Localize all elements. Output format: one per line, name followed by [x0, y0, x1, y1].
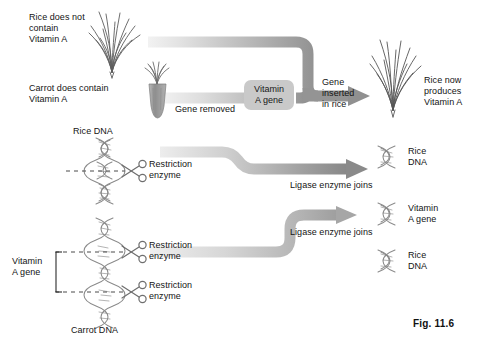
vitamin-a-gene-box: Vitamin A gene [244, 80, 294, 110]
label-product-rice-dna-2: Rice DNA [408, 250, 427, 272]
label-vitamin-a-gene-bracket: Vitamin A gene [12, 256, 42, 278]
dna-helix-product-1 [378, 146, 395, 168]
label-rice-does-not-contain: Rice does not contain Vitamin A [29, 12, 85, 46]
label-carrot-dna: Carrot DNA [71, 325, 118, 336]
carrot-icon [145, 62, 169, 118]
dna-helix-product-2 [378, 203, 395, 225]
label-gene-removed: Gene removed [175, 104, 235, 115]
label-restriction-enzyme-1: Restriction enzyme [149, 159, 192, 181]
dna-helix-carrot [84, 218, 125, 328]
figure-canvas: Rice does not contain Vitamin A Carrot d… [0, 0, 478, 349]
rice-plant-left-icon [89, 12, 140, 78]
label-ligase-enzyme-joins-1: Ligase enzyme joins [290, 180, 373, 191]
label-rice-now-produces: Rice now produces Vitamin A [424, 75, 462, 109]
rice-plant-right-icon [370, 40, 421, 117]
scissors-icon-1 [122, 160, 146, 181]
diagram-graphics [0, 0, 478, 349]
vitamin-a-gene-bracket [56, 252, 62, 292]
dna-helix-product-3 [378, 250, 395, 272]
label-ligase-enzyme-joins-2: Ligase enzyme joins [290, 227, 373, 238]
label-gene-inserted-in-rice: Gene inserted in rice [322, 77, 354, 111]
label-carrot-does-contain: Carrot does contain Vitamin A [29, 83, 109, 105]
figure-caption: Fig. 11.6 [413, 318, 454, 329]
label-restriction-enzyme-3: Restriction enzyme [149, 280, 192, 302]
scissors-icon-3 [122, 281, 146, 302]
label-restriction-enzyme-2: Restriction enzyme [149, 240, 192, 262]
label-product-vitamin-a-gene: Vitamin A gene [408, 203, 438, 225]
label-product-rice-dna-1: Rice DNA [408, 146, 427, 168]
label-rice-dna: Rice DNA [73, 126, 113, 137]
scissors-icon-2 [122, 241, 146, 262]
